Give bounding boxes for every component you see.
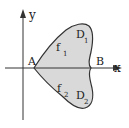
y-axis-label: y [28,8,36,22]
svg-text:1: 1 [84,37,88,45]
y-axis-arrow-icon [20,9,26,18]
point-a-label: A [27,55,37,68]
svg-text:2: 2 [64,91,68,99]
x-axis-label: x [114,61,121,75]
region-diagram: y x A B f 1 D 1 f 2 D 2 [0,0,129,128]
svg-text:2: 2 [84,98,88,106]
point-b-label: B [96,55,104,68]
svg-text:1: 1 [63,50,67,58]
